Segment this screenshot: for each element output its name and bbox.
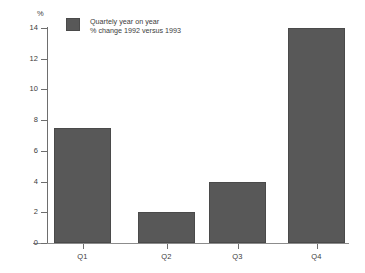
y-axis-tick-mark: [41, 243, 47, 244]
x-axis-tick-mark: [238, 244, 239, 249]
bar-chart: % 14121086420 Q1Q2Q3Q4 Quartely year on …: [0, 0, 365, 273]
y-axis-tick-label: 8: [16, 116, 38, 124]
x-axis-line: [33, 243, 349, 244]
y-axis-tick-mark: [41, 120, 47, 121]
x-axis-tick-label-q4: Q4: [297, 253, 337, 261]
chart-legend: Quartely year on year % change 1992 vers…: [66, 17, 181, 35]
bar-q1: [54, 128, 111, 243]
y-axis-tick-label: 10: [16, 85, 38, 93]
legend-label-line-1: Quartely year on year: [90, 17, 181, 26]
y-axis-tick-mark: [41, 151, 47, 152]
y-axis-tick-mark: [41, 182, 47, 183]
y-axis-line: [47, 27, 48, 244]
bar-q3: [209, 182, 266, 243]
bar-q2: [138, 212, 195, 243]
x-axis-tick-mark: [167, 244, 168, 249]
y-axis-tick-label: 12: [16, 55, 38, 63]
x-axis-tick-label-q3: Q3: [218, 253, 258, 261]
x-axis-tick-label-q1: Q1: [63, 253, 103, 261]
y-axis-tick-label: 6: [16, 147, 38, 155]
bar-q4: [288, 28, 345, 243]
y-axis-tick-label: 0: [16, 239, 38, 247]
legend-label-series-1: Quartely year on year % change 1992 vers…: [90, 17, 181, 35]
legend-swatch-series-1: [66, 18, 80, 31]
x-axis-tick-label-q2: Q2: [147, 253, 187, 261]
x-axis-tick-mark: [83, 244, 84, 249]
y-axis-tick-mark: [41, 89, 47, 90]
y-axis-tick-mark: [41, 28, 47, 29]
legend-label-line-2: % change 1992 versus 1993: [90, 26, 181, 35]
y-axis-tick-mark: [41, 59, 47, 60]
y-axis-tick-label: 2: [16, 208, 38, 216]
y-axis-tick-mark: [41, 212, 47, 213]
x-axis-tick-mark: [317, 244, 318, 249]
y-axis-tick-label: 14: [16, 24, 38, 32]
y-axis-tick-label: 4: [16, 178, 38, 186]
y-axis-unit-label: %: [37, 10, 44, 18]
